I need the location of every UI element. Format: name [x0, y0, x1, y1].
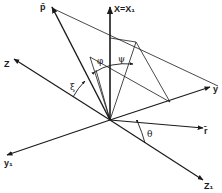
y-axis — [110, 87, 210, 120]
z1-axis-label: Z₁ — [204, 181, 213, 191]
p-vector-label: p̄ — [40, 2, 46, 12]
r-vector — [110, 120, 203, 128]
z-axis-label: Z — [4, 59, 10, 69]
projection-line — [54, 9, 218, 86]
angle-phi-label: φ — [97, 56, 103, 66]
z-axis — [14, 59, 110, 120]
psi-plane-edge-2 — [136, 42, 170, 102]
angle-xi-label: ξ — [70, 82, 75, 92]
x-axis-label: X=X₁ — [114, 4, 135, 14]
z1-axis — [110, 120, 203, 180]
y1-axis-label: y₁ — [4, 158, 13, 168]
coordinate-diagram: X=X₁ p̄ Z y r̄ Z₁ y₁ φ ψ ξ θ — [0, 0, 222, 193]
y-axis-label: y — [213, 84, 218, 94]
y1-axis — [7, 120, 110, 155]
angle-theta-label: θ — [147, 129, 152, 139]
r-vector-label: r̄ — [203, 126, 208, 136]
angle-psi-label: ψ — [118, 54, 125, 64]
